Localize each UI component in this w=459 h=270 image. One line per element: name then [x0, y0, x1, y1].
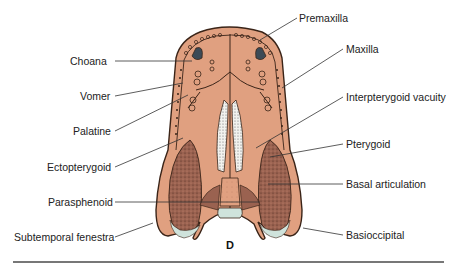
panel-letter: D [226, 239, 234, 251]
label-pterygoid: Pterygoid [346, 138, 390, 150]
label-choana: Choana [70, 55, 107, 67]
label-vomer: Vomer [80, 90, 110, 102]
label-palatine: Palatine [73, 125, 111, 137]
label-ectopterygoid: Ectopterygoid [47, 161, 111, 173]
label-premaxilla: Premaxilla [299, 12, 348, 24]
label-basal-articulation: Basal articulation [346, 178, 426, 190]
label-basioccipital: Basioccipital [346, 229, 404, 241]
label-interpterygoid-vacuity: Interpterygoid vacuity [346, 91, 446, 103]
divider-rule [13, 261, 444, 263]
label-parasphenoid: Parasphenoid [48, 196, 113, 208]
basioccipital [218, 208, 243, 218]
label-maxilla: Maxilla [346, 43, 379, 55]
label-subtemporal-fenestra: Subtemporal fenestra [14, 231, 114, 243]
